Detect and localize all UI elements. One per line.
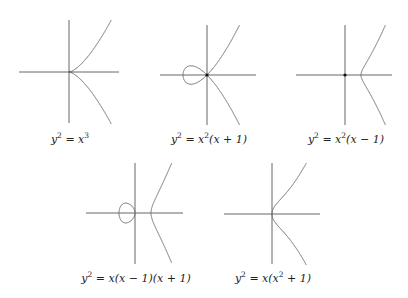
panel-node [160, 25, 256, 125]
label-cusp: y2 = x3 [51, 131, 89, 146]
panel-smooth [224, 163, 320, 265]
label-isolated-point: y2 = x2(x − 1) [308, 131, 384, 146]
curves-canvas [0, 0, 408, 298]
panel-isolated-point [296, 25, 392, 125]
label-smooth: y2 = x(x2 + 1) [235, 270, 311, 285]
panel-cusp [19, 20, 119, 124]
label-two-components: y2 = x(x − 1)(x + 1) [81, 270, 190, 285]
cubic-curves-figure: y2 = x3 y2 = x2(x + 1) y2 = x2(x − 1) y2… [0, 0, 408, 298]
singular-point-dot [205, 73, 208, 76]
singular-point-dot [343, 73, 346, 76]
label-node: y2 = x2(x + 1) [171, 131, 247, 146]
panel-two-components [86, 163, 183, 264]
